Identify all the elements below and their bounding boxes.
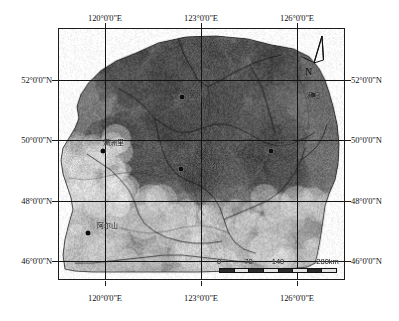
city-label: 阿尔山 xyxy=(97,220,119,230)
lat-label-right-52: 52°0'0"N xyxy=(351,75,382,85)
graticule-line-lat-48 xyxy=(59,201,344,202)
lat-label-right-46: 46°0'0"N xyxy=(351,256,382,266)
lat-label-left-52: 52°0'0"N xyxy=(21,75,52,85)
lon-label-bottom-126: 126°0'0"E xyxy=(280,293,314,303)
city-label: 齐齐哈尔 xyxy=(185,159,222,171)
lon-label-top-126: 126°0'0"E xyxy=(280,13,314,23)
tick-bottom-120 xyxy=(105,281,106,286)
scale-bar-segment xyxy=(293,269,308,272)
city-label: 漠河 xyxy=(187,87,205,99)
city-marker[interactable] xyxy=(269,149,274,154)
city-marker[interactable] xyxy=(101,149,106,154)
scale-bar-segment xyxy=(249,269,264,272)
scale-tick-0: 0 xyxy=(217,257,221,266)
scale-bar-segment xyxy=(308,269,323,272)
tick-right-48 xyxy=(345,201,351,202)
city-marker[interactable] xyxy=(180,95,185,100)
city-label: 黑河 xyxy=(278,138,292,148)
tick-right-50 xyxy=(345,140,351,141)
tick-bottom-126 xyxy=(297,281,298,286)
tick-bottom-123 xyxy=(201,281,202,286)
map-figure: 120°0'0"E 123°0'0"E 126°0'0"E 120°0'0"E … xyxy=(0,0,399,321)
scale-bar-segment xyxy=(322,269,336,272)
lat-label-left-48: 48°0'0"N xyxy=(21,196,52,206)
graticule-line-lon-120 xyxy=(105,29,106,279)
lon-label-top-123: 123°0'0"E xyxy=(184,13,218,23)
lon-label-top-120: 120°0'0"E xyxy=(88,13,122,23)
city-label: 满洲里 xyxy=(103,137,125,147)
tick-right-46 xyxy=(345,261,351,262)
lon-label-bottom-123: 123°0'0"E xyxy=(184,293,218,303)
scale-tick-140: 140 xyxy=(272,257,285,266)
lat-label-right-50: 50°0'0"N xyxy=(351,135,382,145)
scale-tick-280: 280km xyxy=(316,257,339,266)
scale-bar-labels: 0 70 140 280km xyxy=(219,257,337,268)
north-arrow: N xyxy=(292,33,332,81)
north-arrow-label: N xyxy=(305,66,312,77)
city-label: 满归 xyxy=(306,90,320,100)
lon-label-bottom-120: 120°0'0"E xyxy=(88,293,122,303)
scale-bar-graphic xyxy=(219,268,337,273)
lat-label-right-48: 48°0'0"N xyxy=(351,196,382,206)
lat-label-left-46: 46°0'0"N xyxy=(21,256,52,266)
scale-tick-70: 70 xyxy=(244,257,252,266)
scale-bar-segment xyxy=(220,269,235,272)
tick-right-52 xyxy=(345,80,351,81)
city-marker[interactable] xyxy=(178,166,183,171)
scale-bar: 0 70 140 280km xyxy=(219,257,337,273)
map-frame[interactable]: 漠河满洲里齐齐哈尔黑河满归阿尔山 N 0 70 140 280km xyxy=(58,28,345,280)
city-marker[interactable] xyxy=(85,231,90,236)
scale-bar-segment xyxy=(279,269,294,272)
scale-bar-segment xyxy=(235,269,250,272)
lat-label-left-50: 50°0'0"N xyxy=(21,135,52,145)
scale-bar-segment xyxy=(264,269,279,272)
graticule-line-lon-123 xyxy=(201,29,202,279)
